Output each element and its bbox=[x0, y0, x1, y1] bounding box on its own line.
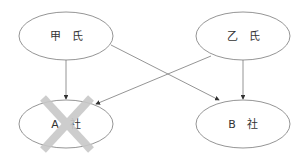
edge-kou-to-b bbox=[111, 45, 219, 100]
node-kou: 甲 氏 bbox=[19, 12, 113, 60]
relationship-diagram: 甲 氏 乙 氏 A 社 B 社 bbox=[0, 0, 306, 161]
node-b-company: B 社 bbox=[196, 100, 290, 148]
node-otsu-label: 乙 氏 bbox=[227, 30, 260, 43]
node-kou-label: 甲 氏 bbox=[50, 30, 83, 43]
node-a-company: A 社 bbox=[19, 98, 113, 150]
edge-otsu-to-a bbox=[96, 56, 211, 104]
node-b-company-label: B 社 bbox=[228, 117, 258, 131]
node-otsu: 乙 氏 bbox=[196, 12, 290, 60]
